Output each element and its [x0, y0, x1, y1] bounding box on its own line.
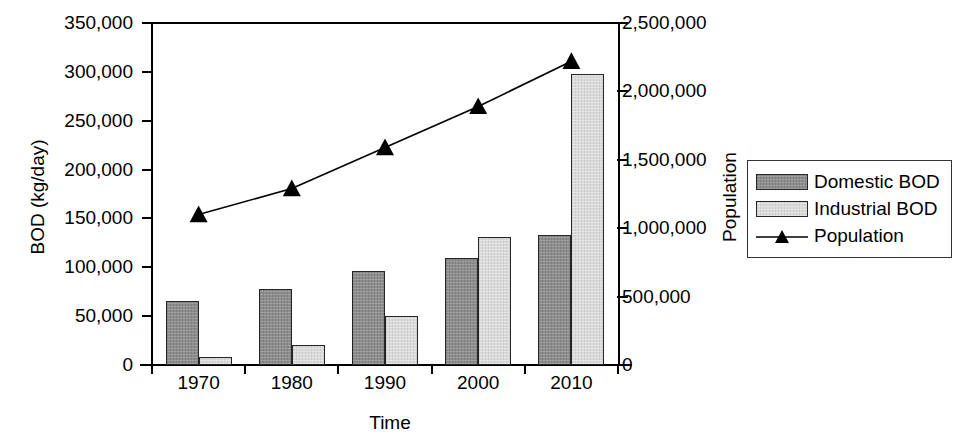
population-data-marker [190, 206, 208, 223]
legend-marker-population [756, 228, 808, 244]
legend-label-industrial-bod: Industrial BOD [814, 199, 938, 218]
y-axis-left-tick-label: 50,000 [3, 306, 133, 325]
y-axis-left-tick-label: 250,000 [3, 111, 133, 130]
triangle-marker-icon [756, 228, 808, 244]
y-axis-left-tick-label: 350,000 [3, 13, 133, 32]
y-axis-right-tick-mark [617, 22, 628, 24]
population-line-svg [152, 23, 618, 365]
x-axis-tick-mark [617, 364, 619, 374]
y-axis-left-tick-label: 200,000 [3, 160, 133, 179]
y-axis-right-tick-mark [617, 90, 628, 92]
legend-label-domestic-bod: Domestic BOD [814, 172, 940, 191]
y-axis-left-tick-label: 150,000 [3, 208, 133, 227]
legend-swatch-domestic-bod [756, 174, 808, 190]
x-axis-tick-label: 2010 [526, 372, 616, 394]
population-data-marker [376, 138, 394, 155]
y-axis-right-tick-mark [617, 296, 628, 298]
legend-item-population: Population [756, 222, 943, 249]
y-axis-left-tick-label: 100,000 [3, 257, 133, 276]
y-axis-right-tick-label: 0 [622, 355, 762, 374]
legend-swatch-industrial-bod [756, 201, 808, 217]
population-data-marker [562, 52, 580, 69]
y-axis-left-ticks: 050,000100,000150,000200,000250,000300,0… [0, 0, 133, 440]
y-axis-right-tick-label: 1,500,000 [622, 150, 762, 169]
y-axis-right-tick-label: 2,000,000 [622, 81, 762, 100]
chart-legend: Domestic BOD Industrial BOD Population [747, 160, 952, 258]
population-line-layer [152, 23, 618, 365]
y-axis-right-tick-mark [617, 159, 628, 161]
y-axis-right-tick-mark [617, 227, 628, 229]
y-axis-right-line [618, 22, 620, 366]
x-axis-tick-label: 1990 [340, 372, 430, 394]
chart-container: BOD (kg/day) Population Time 050,000100,… [0, 0, 964, 440]
x-axis-tick-label: 1980 [247, 372, 337, 394]
x-axis-tick-label: 2000 [433, 372, 523, 394]
legend-item-industrial-bod: Industrial BOD [756, 195, 943, 222]
legend-item-domestic-bod: Domestic BOD [756, 168, 943, 195]
y-axis-right-tick-label: 2,500,000 [622, 13, 762, 32]
y-axis-right-tick-label: 500,000 [622, 287, 762, 306]
y-axis-right-tick-label: 1,000,000 [622, 218, 762, 237]
population-line-path [199, 61, 572, 214]
population-data-marker [469, 97, 487, 114]
population-data-marker [283, 180, 301, 197]
x-axis-tick-label: 1970 [154, 372, 244, 394]
legend-label-population: Population [814, 226, 904, 245]
y-axis-left-tick-label: 0 [3, 355, 133, 374]
x-axis-title: Time [140, 412, 640, 434]
y-axis-left-tick-label: 300,000 [3, 62, 133, 81]
